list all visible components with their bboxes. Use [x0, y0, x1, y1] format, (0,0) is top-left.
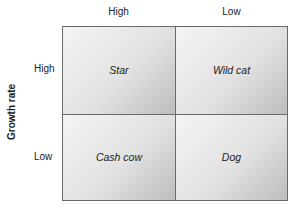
column-label-high: High	[62, 6, 175, 17]
row-label-high: High	[34, 63, 60, 74]
growth-share-matrix: Star Wild cat Cash cow Dog	[62, 26, 288, 201]
cell-wild-cat: Wild cat	[175, 27, 287, 114]
cell-cash-cow: Cash cow	[63, 114, 175, 201]
y-axis-title: Growth rate	[6, 84, 17, 140]
column-label-low: Low	[175, 6, 288, 17]
row-label-low: Low	[34, 151, 60, 162]
cell-star: Star	[63, 27, 175, 114]
cell-dog: Dog	[175, 114, 287, 201]
